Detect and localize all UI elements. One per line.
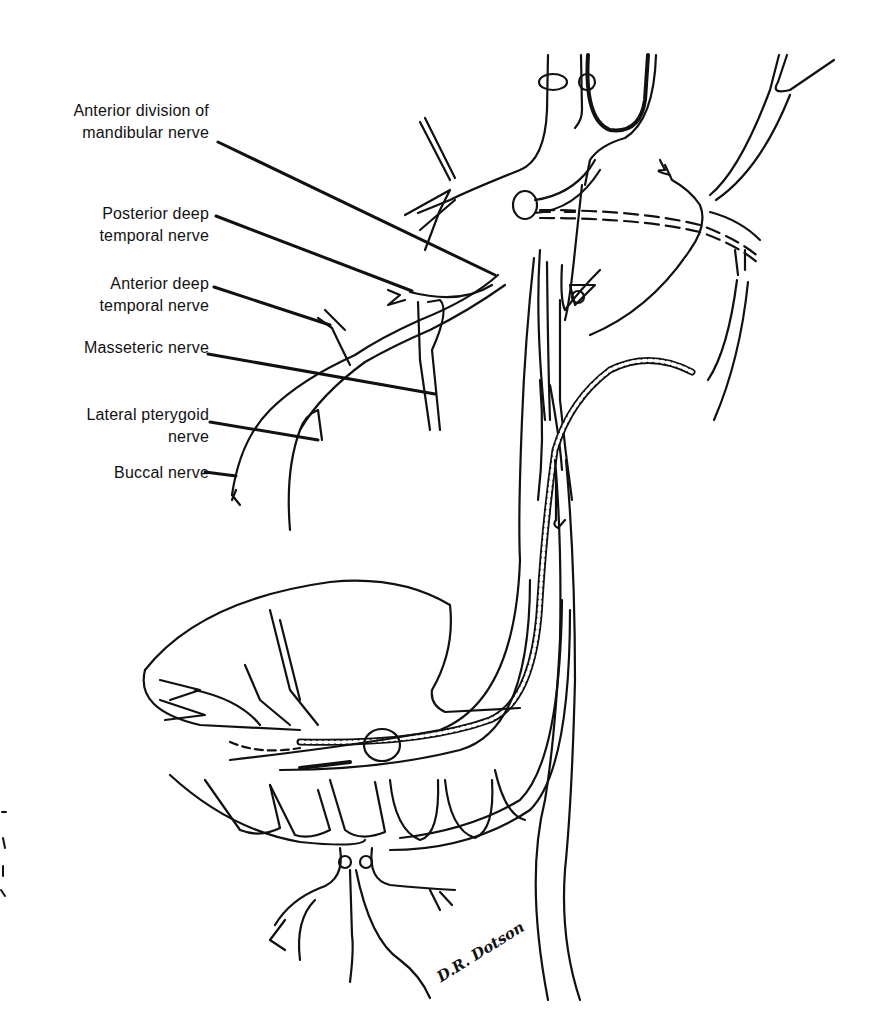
- upper-trunk: [405, 55, 656, 250]
- nerve-line-drawing: [0, 0, 874, 1034]
- central-trunk: [519, 185, 600, 560]
- tongue-outline: [144, 581, 520, 730]
- mental-branches: [270, 848, 455, 998]
- edge-marks: [1, 812, 6, 896]
- hatched-artery: [300, 360, 692, 742]
- nerve-diagram-figure: Anterior division of mandibular nerve Po…: [0, 0, 874, 1034]
- leader-lines: [205, 142, 495, 476]
- left-branches: [232, 275, 505, 530]
